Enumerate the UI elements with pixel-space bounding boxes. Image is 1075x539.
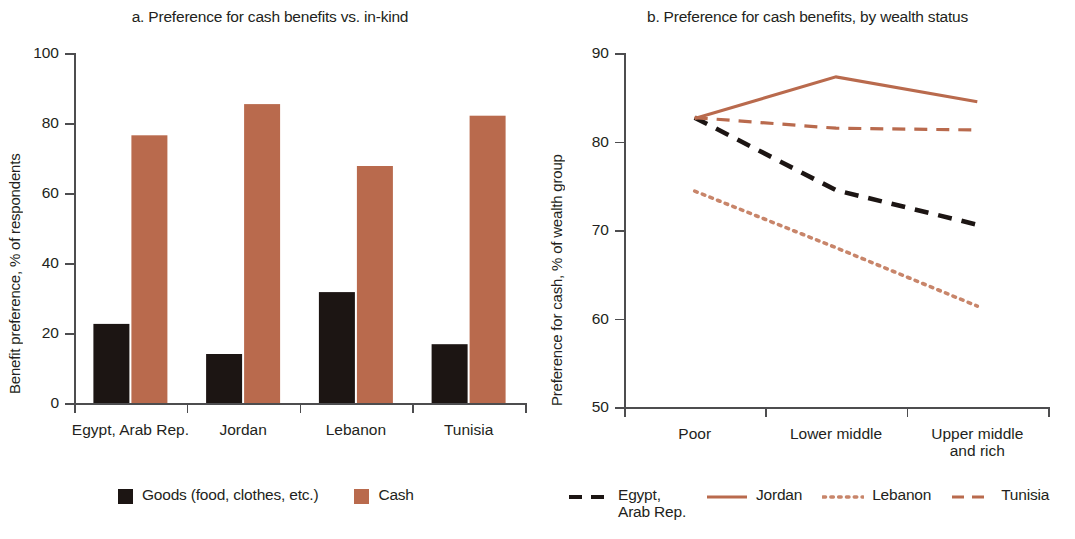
panel-b-y-tick-label: 60 <box>592 310 609 328</box>
panel-a-x-tick <box>300 403 302 413</box>
panel-b-title: b. Preference for cash benefits, by weal… <box>540 8 1075 26</box>
panel-b-lines-plot-area <box>624 53 1048 407</box>
solid-line-key <box>706 490 748 504</box>
panel-b: b. Preference for cash benefits, by weal… <box>540 0 1075 539</box>
panel-b-legend-item[interactable]: Tunisia <box>951 486 1049 504</box>
panel-a-y-tick <box>65 193 74 195</box>
panel-b-legend-label: Tunisia <box>1001 486 1049 503</box>
panel-b-y-tick-label: 80 <box>592 133 609 151</box>
panel-a-x-tick <box>525 403 527 413</box>
square-swatch <box>118 489 133 504</box>
panel-b-y-tick <box>615 230 624 232</box>
bar-tunisia-goods <box>432 344 468 403</box>
panel-a-y-tick-label: 80 <box>42 114 59 132</box>
line-series-tunisia <box>695 118 978 130</box>
panel-b-y-tick-label: 90 <box>592 44 609 62</box>
panel-b-y-axis-label: Preference for cash, % of wealth group <box>548 56 565 406</box>
panel-b-y-tick <box>615 319 624 321</box>
panel-b-legend-label: Jordan <box>756 486 802 503</box>
panel-a-legend-label: Goods (food, clothes, etc.) <box>142 486 318 503</box>
panel-a-x-tick <box>187 403 189 413</box>
panel-a-y-tick-label: 40 <box>42 254 59 272</box>
panel-a-y-tick-label: 0 <box>50 394 59 412</box>
panel-b-x-tick-label: Upper middle and rich <box>897 425 1057 460</box>
panel-b-legend-label: Lebanon <box>872 486 931 503</box>
panel-b-y-axis-line <box>624 53 626 408</box>
panel-a-legend-item[interactable]: Cash <box>354 486 413 504</box>
dashed-line-key <box>951 490 993 504</box>
panel-a-bars-svg <box>74 53 525 405</box>
panel-b-legend-label: Egypt, Arab Rep. <box>618 486 686 521</box>
panel-b-legend-item[interactable]: Jordan <box>706 486 802 504</box>
panel-a-y-tick <box>65 333 74 335</box>
panel-a-y-tick-label: 20 <box>42 324 59 342</box>
line-series-lebanon <box>695 191 978 306</box>
panel-a-y-axis-label: Benefit preference, % of respondents <box>6 64 23 394</box>
panel-a-legend-item[interactable]: Goods (food, clothes, etc.) <box>118 486 318 504</box>
bar-jordan-cash <box>244 104 280 403</box>
bar-lebanon-cash <box>357 166 393 403</box>
panel-b-x-tick-label: Lower middle <box>756 425 916 442</box>
panel-b-y-tick-label: 70 <box>592 221 609 239</box>
panel-a-title: a. Preference for cash benefits vs. in-k… <box>0 8 540 26</box>
panel-a-y-tick-label: 60 <box>42 184 59 202</box>
panel-b-legend-item[interactable]: Egypt, Arab Rep. <box>568 486 686 521</box>
dotted-line-key <box>822 490 864 504</box>
panel-a-y-tick <box>65 263 74 265</box>
panel-a-x-tick <box>74 403 76 413</box>
figure-container: a. Preference for cash benefits vs. in-k… <box>0 0 1075 539</box>
panel-a-y-tick-label: 100 <box>33 44 59 62</box>
bar-tunisia-cash <box>470 116 506 403</box>
line-series-egypt <box>695 118 978 225</box>
dashed-line-key <box>568 490 610 504</box>
panel-b-y-tick <box>615 142 624 144</box>
panel-b-x-tick <box>1048 407 1050 417</box>
panel-a-y-tick <box>65 123 74 125</box>
panel-a-legend: Goods (food, clothes, etc.)Cash <box>118 486 414 504</box>
panel-a-x-tick <box>412 403 414 413</box>
bar-jordan-goods <box>206 354 242 403</box>
panel-b-x-axis-line <box>624 407 1048 409</box>
panel-b-legend-item[interactable]: Lebanon <box>822 486 931 504</box>
square-swatch <box>354 489 369 504</box>
panel-a-legend-label: Cash <box>378 486 413 503</box>
panel-b-x-tick <box>907 407 909 417</box>
panel-b-lines-svg <box>624 53 1048 409</box>
panel-b-x-tick <box>765 407 767 417</box>
panel-b-y-tick <box>615 53 624 55</box>
panel-b-y-tick <box>615 407 624 409</box>
panel-b-x-tick <box>624 407 626 417</box>
bar-lebanon-goods <box>319 292 355 403</box>
panel-a-plot-area <box>74 53 525 403</box>
panel-a-y-tick <box>65 53 74 55</box>
bar-egypt-arab-rep--goods <box>93 324 129 403</box>
panel-b-y-tick-label: 50 <box>592 398 609 416</box>
line-series-jordan <box>695 77 978 119</box>
panel-a: a. Preference for cash benefits vs. in-k… <box>0 0 540 539</box>
panel-b-legend: Egypt, Arab Rep.JordanLebanonTunisia <box>568 486 1049 521</box>
panel-a-x-tick-label: Tunisia <box>389 421 549 438</box>
panel-a-y-axis-line <box>74 53 76 404</box>
bar-egypt-arab-rep--cash <box>131 135 167 403</box>
panel-b-x-tick-label: Poor <box>615 425 775 442</box>
panel-a-y-tick <box>65 403 74 405</box>
